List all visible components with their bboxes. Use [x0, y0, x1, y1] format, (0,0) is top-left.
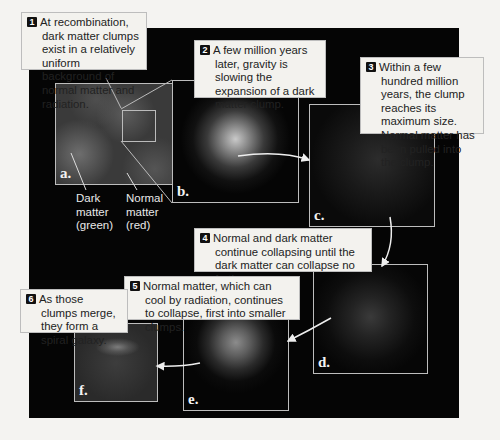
step-2-callout: 2A few million years later, gravity is s…	[194, 40, 326, 98]
step-6-callout: 6As those clumps merge, they form a spir…	[20, 289, 128, 333]
step-number-badge: 4	[200, 233, 210, 243]
step-number-badge: 6	[26, 294, 36, 304]
step-number-badge: 2	[200, 45, 210, 55]
step-4-callout: 4Normal and dark matter continue collaps…	[194, 228, 372, 272]
step-5-callout: 5Normal matter, which can cool by radiat…	[124, 276, 300, 320]
step-1-callout: 1At recombination, dark matter clumps ex…	[21, 12, 147, 70]
step-number-badge: 5	[130, 281, 140, 291]
step-number-badge: 1	[27, 17, 37, 27]
dark-matter-label: Dark matter (green)	[76, 192, 113, 233]
step-3-callout: 3Within a few hundred million years, the…	[360, 57, 484, 134]
normal-matter-label: Normal matter (red)	[126, 192, 163, 233]
step-number-badge: 3	[366, 62, 376, 72]
